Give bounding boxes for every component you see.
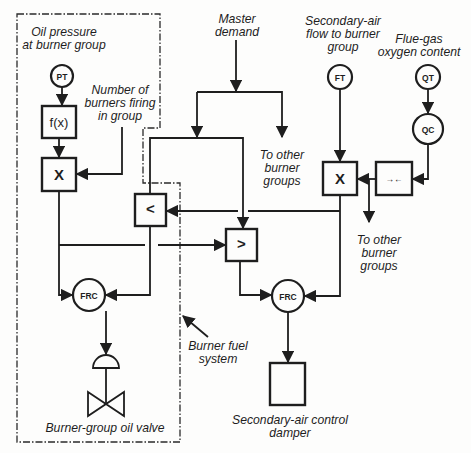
quality-transmitter: QT	[416, 65, 440, 89]
low-selector-block: <	[135, 194, 166, 226]
flue-gas-label: Flue-gas	[395, 32, 442, 46]
fuel-multiplier-block: X	[42, 158, 76, 191]
master-demand-label: Master	[218, 12, 256, 26]
burner-fuel-label: Burner fuel	[188, 339, 248, 353]
quality-controller: QC	[413, 114, 443, 144]
flow-transmitter: FT	[328, 65, 352, 89]
bias-ratio-block: →←	[376, 162, 412, 195]
fuel-multiplier-label: X	[54, 166, 64, 183]
ft-tag: FT	[335, 73, 346, 83]
control-diagram: PT f(x) X < FRC >	[0, 0, 471, 453]
oil-pressure-label: Oil pressure	[31, 25, 97, 39]
pt-tag: PT	[57, 72, 69, 82]
air-multiplier-block: X	[323, 162, 357, 195]
other-groups-label-2: To other	[357, 233, 402, 247]
secondary-air-label-3: group	[327, 40, 358, 54]
burner-fuel-label-2: system	[199, 352, 238, 366]
oil-pressure-label-2: at burner group	[22, 38, 106, 52]
fuel-flow-controller: FRC	[73, 279, 105, 311]
other-groups-label-2b: burner	[361, 246, 397, 260]
oil-valve-icon	[88, 355, 124, 416]
other-groups-label-1c: groups	[263, 174, 300, 188]
damper-label: Secondary-air control	[232, 413, 348, 427]
other-groups-label-2c: groups	[360, 259, 397, 273]
air-frc-tag: FRC	[279, 292, 296, 302]
flue-gas-label-2: oxygen content	[378, 45, 461, 59]
secondary-air-label-2: flow to burner	[306, 27, 381, 41]
characterizer-block: f(x)	[42, 106, 76, 138]
other-groups-label-1: To other	[260, 148, 305, 162]
low-selector-label: <	[146, 200, 155, 217]
other-groups-label-1b: burner	[264, 161, 300, 175]
air-flow-controller: FRC	[272, 280, 304, 312]
fx-label: f(x)	[50, 115, 69, 130]
air-multiplier-label: X	[335, 170, 345, 187]
master-demand-label-2: demand	[215, 25, 260, 39]
qc-tag: QC	[422, 125, 435, 135]
num-burners-label-3: in group	[98, 109, 142, 123]
qt-tag: QT	[422, 73, 435, 83]
high-selector-label: >	[237, 235, 246, 252]
num-burners-label: Number of	[92, 83, 151, 97]
bias-ratio-label: →←	[386, 174, 403, 184]
num-burners-label-2: burners firing	[84, 96, 155, 110]
fuel-frc-tag: FRC	[80, 291, 97, 301]
pressure-transmitter: PT	[51, 65, 73, 87]
damper-box	[270, 363, 305, 405]
oil-valve-label: Burner-group oil valve	[45, 421, 164, 435]
damper-label-2: damper	[269, 426, 311, 440]
secondary-air-label: Secondary-air	[305, 14, 382, 28]
high-selector-block: >	[226, 229, 257, 261]
burner-fuel-system-boundary	[17, 14, 180, 442]
